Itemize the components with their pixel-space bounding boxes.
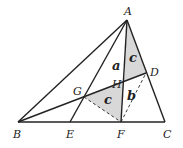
vertex-label-e: E — [65, 128, 74, 141]
vertex-labels: ABCDEFGH — [12, 5, 172, 141]
vertex-label-h: H — [111, 78, 122, 91]
diagram-svg: acbc ABCDEFGH — [0, 0, 183, 148]
vertex-label-a: A — [123, 5, 132, 18]
region-label-c: c — [129, 50, 137, 65]
geometry-diagram: acbc ABCDEFGH — [0, 0, 183, 148]
vertex-label-b: B — [12, 128, 21, 141]
vertex-label-c: C — [163, 128, 172, 141]
vertex-label-d: D — [149, 66, 159, 79]
region-label-c: c — [104, 92, 112, 107]
region-label-b: b — [127, 88, 136, 103]
region-label-a: a — [112, 58, 120, 73]
vertex-label-f: F — [116, 128, 125, 141]
vertex-label-g: G — [73, 85, 82, 98]
